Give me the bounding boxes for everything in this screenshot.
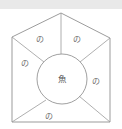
- divider-bottom-left-spoke: [12, 100, 46, 122]
- region-label-right: の: [92, 77, 100, 86]
- region-label-top-left: の: [36, 35, 44, 44]
- divider-right-corner-spoke: [80, 38, 110, 62]
- region-label-left: の: [21, 59, 29, 68]
- divider-bottom-right-spoke: [79, 96, 110, 122]
- center-label-fish: 魚: [58, 74, 67, 84]
- diagram-canvas: 魚 の の の の の: [0, 0, 122, 129]
- region-label-bottom: の: [45, 112, 53, 121]
- region-label-top-right: の: [73, 35, 81, 44]
- figure-root: 魚 の の の の の: [0, 0, 122, 129]
